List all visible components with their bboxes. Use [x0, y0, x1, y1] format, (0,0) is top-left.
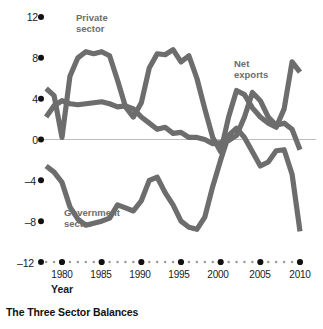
- annotation-private-sector-line2: sector: [76, 23, 108, 34]
- y-axis-tick-dots: [38, 14, 44, 265]
- y-tick-label-12: 12: [12, 11, 38, 23]
- annotation-net-exports-line1: Net: [234, 58, 268, 69]
- x-tick-label-1995: 1995: [159, 269, 199, 280]
- x-tick-label-1980: 1980: [42, 269, 82, 280]
- annotation-government-sector-line2: sector: [64, 218, 120, 229]
- y-tick-label-m4: –4: [10, 175, 36, 187]
- x-axis-tick-dots: [45, 259, 303, 265]
- chart-figure: Net exports and sector balances (percent…: [0, 0, 323, 329]
- annotation-private-sector: Private sector: [76, 12, 108, 34]
- y-tick-label-4: 4: [12, 93, 38, 105]
- annotation-private-sector-line1: Private: [76, 12, 108, 23]
- x-tick-label-1990: 1990: [120, 269, 160, 280]
- annotation-government-sector-line1: Government: [64, 207, 120, 218]
- x-tick-label-1985: 1985: [81, 269, 121, 280]
- y-tick-label-m8: –8: [10, 216, 36, 228]
- y-tick-label-m12: –12: [8, 257, 34, 269]
- annotation-net-exports: Net exports: [234, 58, 268, 80]
- chart-caption: The Three Sector Balances: [6, 306, 138, 318]
- x-tick-label-2010: 2010: [280, 269, 320, 280]
- x-tick-label-2005: 2005: [240, 269, 280, 280]
- x-tick-label-2000: 2000: [198, 269, 238, 280]
- y-tick-label-8: 8: [12, 52, 38, 64]
- x-axis-title: Year: [51, 283, 73, 295]
- annotation-government-sector: Government sector: [64, 207, 120, 229]
- annotation-net-exports-line2: exports: [234, 69, 268, 80]
- y-tick-label-0: 0: [12, 134, 38, 146]
